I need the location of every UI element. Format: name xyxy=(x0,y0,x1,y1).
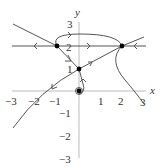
x-tick: −2 xyxy=(28,95,40,107)
equilibrium-point xyxy=(77,89,82,94)
equilibrium-point xyxy=(77,67,82,72)
x-tick: −3 xyxy=(5,95,17,107)
y-axis-label: y xyxy=(74,6,80,18)
y-tick: −3 xyxy=(59,153,71,165)
arrow-icon xyxy=(80,79,86,82)
x-tick: −1 xyxy=(49,95,61,107)
y-tick: −2 xyxy=(59,130,71,142)
y-tick: −1 xyxy=(59,107,71,119)
equilibrium-point xyxy=(55,44,60,49)
equilibrium-point xyxy=(120,44,125,49)
trajectory-ascending xyxy=(13,37,144,128)
y-tick: 2 xyxy=(66,41,72,53)
x-tick: 2 xyxy=(118,95,124,107)
x-tick: 1 xyxy=(98,95,104,107)
x-axis-label: x xyxy=(149,84,155,96)
y-tick: 3 xyxy=(67,18,73,30)
phase-portrait: x y −3 −2 −1 1 2 3 3 2 1 −1 −2 −3 xyxy=(0,0,163,167)
